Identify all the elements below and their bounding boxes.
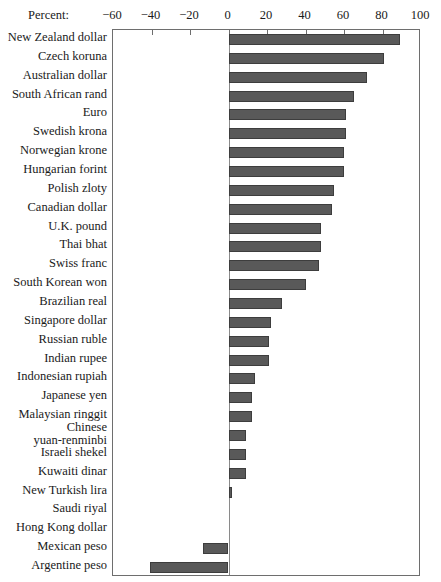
category-label: Australian dollar bbox=[0, 69, 107, 82]
category-label: Mexican peso bbox=[0, 540, 107, 553]
category-label: South Korean won bbox=[0, 276, 107, 289]
chart-header: Percent: −60−40−20020406080100 bbox=[0, 0, 441, 29]
category-label: Indian rupee bbox=[0, 352, 107, 365]
plot-inner bbox=[113, 30, 419, 575]
x-tick-label--40: −40 bbox=[141, 8, 161, 23]
x-tick-mark--40 bbox=[152, 30, 153, 35]
category-label: Polish zloty bbox=[0, 182, 107, 195]
bar bbox=[229, 128, 346, 139]
bar bbox=[229, 317, 271, 328]
category-label: South African rand bbox=[0, 88, 107, 101]
category-label: Norwegian krone bbox=[0, 144, 107, 157]
category-label: Singapore dollar bbox=[0, 314, 107, 327]
bar bbox=[229, 336, 269, 347]
plot-area bbox=[112, 29, 420, 576]
x-tick-label-40: 40 bbox=[298, 8, 311, 23]
x-tick-label--60: −60 bbox=[102, 8, 122, 23]
bar bbox=[229, 468, 246, 479]
bar bbox=[229, 279, 306, 290]
x-tick-label-60: 60 bbox=[337, 8, 350, 23]
x-tick-label--20: −20 bbox=[179, 8, 199, 23]
bar bbox=[229, 185, 335, 196]
x-tick-label-100: 100 bbox=[411, 8, 430, 23]
category-label: Brazilian real bbox=[0, 295, 107, 308]
bar bbox=[229, 355, 269, 366]
category-label: Thai bhat bbox=[0, 238, 107, 251]
category-label: U.K. pound bbox=[0, 220, 107, 233]
category-label: Hong Kong dollar bbox=[0, 521, 107, 534]
x-tick-label-80: 80 bbox=[375, 8, 388, 23]
bar bbox=[229, 53, 385, 64]
category-label: Argentine peso bbox=[0, 559, 107, 572]
category-label: Euro bbox=[0, 106, 107, 119]
category-label: Kuwaiti dinar bbox=[0, 465, 107, 478]
category-label: Russian ruble bbox=[0, 333, 107, 346]
category-label: Indonesian rupiah bbox=[0, 370, 107, 383]
category-label: Israeli shekel bbox=[0, 446, 107, 459]
category-label: Hungarian forint bbox=[0, 163, 107, 176]
category-label: Japanese yen bbox=[0, 389, 107, 402]
bar bbox=[229, 223, 321, 234]
bar bbox=[229, 373, 256, 384]
category-label: Saudi riyal bbox=[0, 502, 107, 515]
category-label: New Turkish lira bbox=[0, 484, 107, 497]
bar bbox=[229, 241, 321, 252]
bar bbox=[203, 543, 228, 554]
bar bbox=[229, 147, 345, 158]
percent-change-bar-chart: Percent: −60−40−20020406080100 New Zeala… bbox=[0, 0, 441, 582]
category-label: Swiss franc bbox=[0, 257, 107, 270]
bar bbox=[229, 298, 283, 309]
bar bbox=[229, 91, 354, 102]
bar bbox=[229, 204, 333, 215]
bar bbox=[229, 260, 319, 271]
bar bbox=[150, 562, 229, 573]
bar bbox=[229, 109, 346, 120]
x-axis-label: Percent: bbox=[28, 8, 69, 23]
category-label: New Zealand dollar bbox=[0, 31, 107, 44]
bar bbox=[229, 487, 233, 498]
bar bbox=[229, 430, 246, 441]
category-label: Czech koruna bbox=[0, 50, 107, 63]
category-label: Canadian dollar bbox=[0, 201, 107, 214]
x-tick-mark--20 bbox=[190, 30, 191, 35]
category-label: Chinese yuan-renminbi bbox=[0, 421, 107, 447]
bar bbox=[229, 411, 252, 422]
bar bbox=[229, 34, 400, 45]
bar bbox=[229, 72, 368, 83]
x-tick-label-0: 0 bbox=[224, 8, 230, 23]
category-label: Swedish krona bbox=[0, 125, 107, 138]
bar bbox=[229, 392, 252, 403]
bar bbox=[229, 449, 246, 460]
x-tick-label-20: 20 bbox=[260, 8, 273, 23]
bar bbox=[229, 166, 345, 177]
